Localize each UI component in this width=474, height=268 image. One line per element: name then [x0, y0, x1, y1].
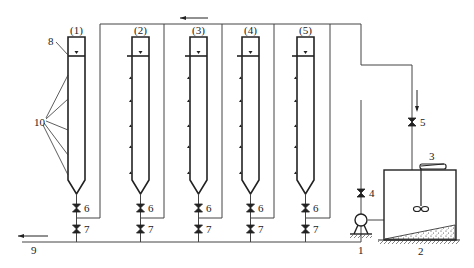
sampling-ports: [129, 77, 297, 175]
valve-6-label-4: 6: [258, 203, 264, 214]
valve-7-label-3: 7: [206, 224, 212, 235]
column-2: [127, 37, 149, 194]
column-1: [68, 37, 85, 194]
tank-label: 2: [418, 246, 424, 257]
mixer-label: 3: [429, 151, 435, 162]
valve-5-label: 5: [420, 117, 426, 128]
column-label-3: (3): [192, 25, 205, 36]
valve-6-label-1: 6: [84, 203, 90, 214]
flow-arrow-top: [180, 16, 208, 20]
valve-6-label-2: 6: [148, 203, 154, 214]
column-3: [185, 37, 207, 194]
column-label-1: (1): [70, 25, 83, 36]
valve-5[interactable]: [408, 118, 416, 126]
valve-6-label-5: 6: [313, 203, 319, 214]
valves-7[interactable]: [73, 225, 310, 233]
drain-arrow: [18, 234, 48, 238]
drain-label: 9: [31, 245, 37, 256]
valve-6-label-3: 6: [206, 203, 212, 214]
column-label-2: (2): [134, 25, 147, 36]
valve-4[interactable]: [357, 189, 365, 197]
leader-lines: [43, 42, 68, 175]
overflow-label: 8: [48, 36, 54, 47]
sampling-ports-label: 10: [34, 117, 45, 128]
valve-7-label-5: 7: [313, 224, 319, 235]
column-5: [292, 37, 314, 194]
valve-7-label-2: 7: [148, 224, 154, 235]
column-label-5: (5): [299, 25, 312, 36]
pump-icon: [350, 214, 372, 238]
valve-4-label: 4: [369, 188, 375, 199]
valve-7-label-4: 7: [258, 224, 264, 235]
valve-7-label-1: 7: [84, 224, 90, 235]
mixer-icon: [414, 164, 447, 212]
flow-arrow-down: [415, 90, 419, 112]
pump-label: 1: [358, 245, 364, 256]
diagram-canvas: [0, 0, 474, 268]
column-label-4: (4): [244, 25, 257, 36]
column-4: [237, 37, 259, 194]
